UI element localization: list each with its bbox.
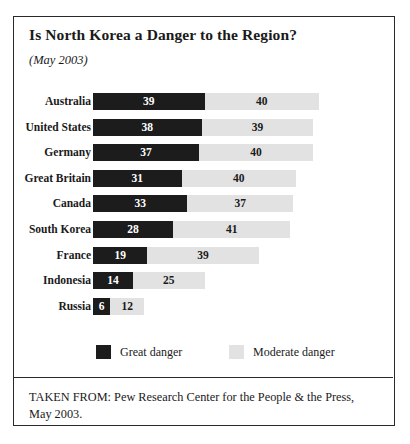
bar-segment-great-danger: 38 <box>93 119 202 136</box>
bar-value-moderate-danger: 40 <box>205 93 319 110</box>
bar-track: 1425 <box>93 272 205 289</box>
bar-value-great-danger: 14 <box>93 272 133 289</box>
bar-row: Canada3337 <box>14 195 394 212</box>
bar-category-label: Great Britain <box>0 171 91 186</box>
bar-segment-moderate-danger: 40 <box>199 144 313 161</box>
legend-swatch-great-danger <box>96 345 111 359</box>
bar-value-moderate-danger: 25 <box>133 272 205 289</box>
bar-segment-great-danger: 28 <box>93 221 173 238</box>
bar-segment-moderate-danger: 41 <box>173 221 290 238</box>
bar-segment-great-danger: 19 <box>93 247 147 264</box>
bar-track: 3740 <box>93 144 313 161</box>
bar-value-great-danger: 6 <box>93 298 110 315</box>
bar-track: 3337 <box>93 195 293 212</box>
bar-value-great-danger: 37 <box>93 144 199 161</box>
legend-swatch-moderate-danger <box>229 345 244 359</box>
bar-value-great-danger: 38 <box>93 119 202 136</box>
bar-value-great-danger: 19 <box>93 247 147 264</box>
bar-segment-great-danger: 39 <box>93 93 205 110</box>
page-title: Is North Korea a Danger to the Region? <box>29 26 297 44</box>
bar-value-moderate-danger: 40 <box>182 170 296 187</box>
bar-category-label: Australia <box>0 94 91 109</box>
bar-segment-moderate-danger: 25 <box>133 272 205 289</box>
bar-track: 3940 <box>93 93 319 110</box>
bar-category-label: Canada <box>0 196 91 211</box>
chart-card: Is North Korea a Danger to the Region? (… <box>13 16 395 426</box>
bar-segment-great-danger: 31 <box>93 170 182 187</box>
bar-track: 3839 <box>93 119 313 136</box>
bar-track: 3140 <box>93 170 296 187</box>
bar-value-moderate-danger: 40 <box>199 144 313 161</box>
bar-row: South Korea2841 <box>14 221 394 238</box>
chart-legend: Great danger Moderate danger <box>14 343 394 365</box>
bar-segment-moderate-danger: 39 <box>147 247 259 264</box>
bar-row: Great Britain3140 <box>14 170 394 187</box>
bar-value-great-danger: 28 <box>93 221 173 238</box>
bar-value-moderate-danger: 12 <box>110 298 144 315</box>
bar-segment-moderate-danger: 37 <box>187 195 293 212</box>
bar-category-label: Indonesia <box>0 273 91 288</box>
bar-category-label: France <box>0 248 91 263</box>
bar-segment-great-danger: 37 <box>93 144 199 161</box>
bar-segment-great-danger: 33 <box>93 195 187 212</box>
bar-category-label: United States <box>0 120 91 135</box>
bar-row: Indonesia1425 <box>14 272 394 289</box>
bar-category-label: Germany <box>0 145 91 160</box>
footer-divider <box>14 377 393 378</box>
bar-row: Germany3740 <box>14 144 394 161</box>
bar-category-label: South Korea <box>0 222 91 237</box>
source-note: TAKEN FROM: Pew Research Center for the … <box>29 389 379 422</box>
bar-row: Australia3940 <box>14 93 394 110</box>
bar-value-great-danger: 31 <box>93 170 182 187</box>
bar-value-moderate-danger: 39 <box>202 119 314 136</box>
bar-track: 1939 <box>93 247 259 264</box>
bar-value-great-danger: 33 <box>93 195 187 212</box>
bar-segment-moderate-danger: 40 <box>205 93 319 110</box>
legend-label-great-danger: Great danger <box>120 343 182 362</box>
bar-row: Russia612 <box>14 298 394 315</box>
chart-subtitle: (May 2003) <box>29 53 88 68</box>
bar-segment-great-danger: 14 <box>93 272 133 289</box>
bar-row: France1939 <box>14 247 394 264</box>
bar-segment-moderate-danger: 39 <box>202 119 314 136</box>
bar-row: United States3839 <box>14 119 394 136</box>
bar-value-moderate-danger: 39 <box>147 247 259 264</box>
bar-value-moderate-danger: 41 <box>173 221 290 238</box>
bar-segment-great-danger: 6 <box>93 298 110 315</box>
bar-category-label: Russia <box>0 299 91 314</box>
legend-label-moderate-danger: Moderate danger <box>253 343 335 362</box>
bar-segment-moderate-danger: 12 <box>110 298 144 315</box>
bar-track: 612 <box>93 298 144 315</box>
bar-segment-moderate-danger: 40 <box>182 170 296 187</box>
bar-chart: Australia3940United States3839Germany374… <box>14 93 394 333</box>
bar-value-great-danger: 39 <box>93 93 205 110</box>
bar-track: 2841 <box>93 221 290 238</box>
bar-value-moderate-danger: 37 <box>187 195 293 212</box>
